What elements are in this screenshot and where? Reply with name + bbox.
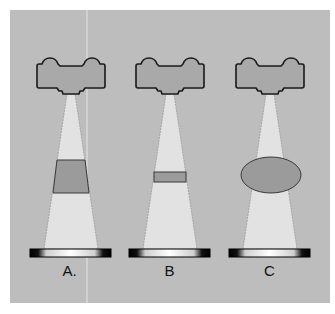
panel-label: B bbox=[164, 262, 174, 279]
detector-bar bbox=[229, 249, 310, 257]
panel-label: C bbox=[264, 262, 275, 279]
detector-bar bbox=[129, 249, 210, 257]
detector-bar bbox=[30, 249, 111, 257]
object-trapezoid bbox=[53, 160, 89, 193]
object-rectangle bbox=[154, 172, 186, 182]
xray-geometry-diagram: A.BC bbox=[0, 0, 335, 314]
object-ellipse bbox=[241, 157, 301, 193]
panel-label: A. bbox=[62, 262, 76, 279]
